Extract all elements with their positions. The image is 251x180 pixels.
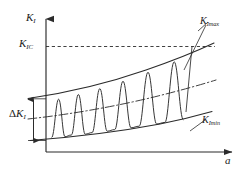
threshold-label: KIC bbox=[19, 38, 33, 49]
upper-envelope-label-base: K bbox=[200, 15, 207, 26]
delta-k-label: ΔKI bbox=[9, 108, 26, 119]
fracture-mechanics-svg bbox=[0, 0, 251, 180]
x-axis-label: a bbox=[225, 155, 231, 166]
upper-envelope-label: KImax bbox=[200, 16, 219, 26]
cyclic-load-oscillation bbox=[52, 62, 183, 138]
upper-envelope-label-sub: Imax bbox=[207, 20, 219, 27]
delta-k-sub: I bbox=[23, 113, 25, 120]
threshold-label-sub: IC bbox=[26, 43, 33, 50]
y-axis-label-sub: I bbox=[33, 17, 35, 24]
y-axis-label: KI bbox=[26, 12, 36, 23]
intersection-drop-line bbox=[186, 47, 192, 113]
x-axis-label-base: a bbox=[225, 154, 231, 166]
lower-envelope-label-base: K bbox=[202, 114, 209, 125]
lower-envelope-label: KImin bbox=[202, 115, 220, 125]
figure-canvas: KI KIC ΔKI KImax KImin a bbox=[0, 0, 251, 180]
kmax-pointer-line bbox=[184, 25, 206, 70]
lower-envelope-curve bbox=[30, 112, 212, 141]
lower-envelope-label-sub: Imin bbox=[209, 119, 220, 126]
